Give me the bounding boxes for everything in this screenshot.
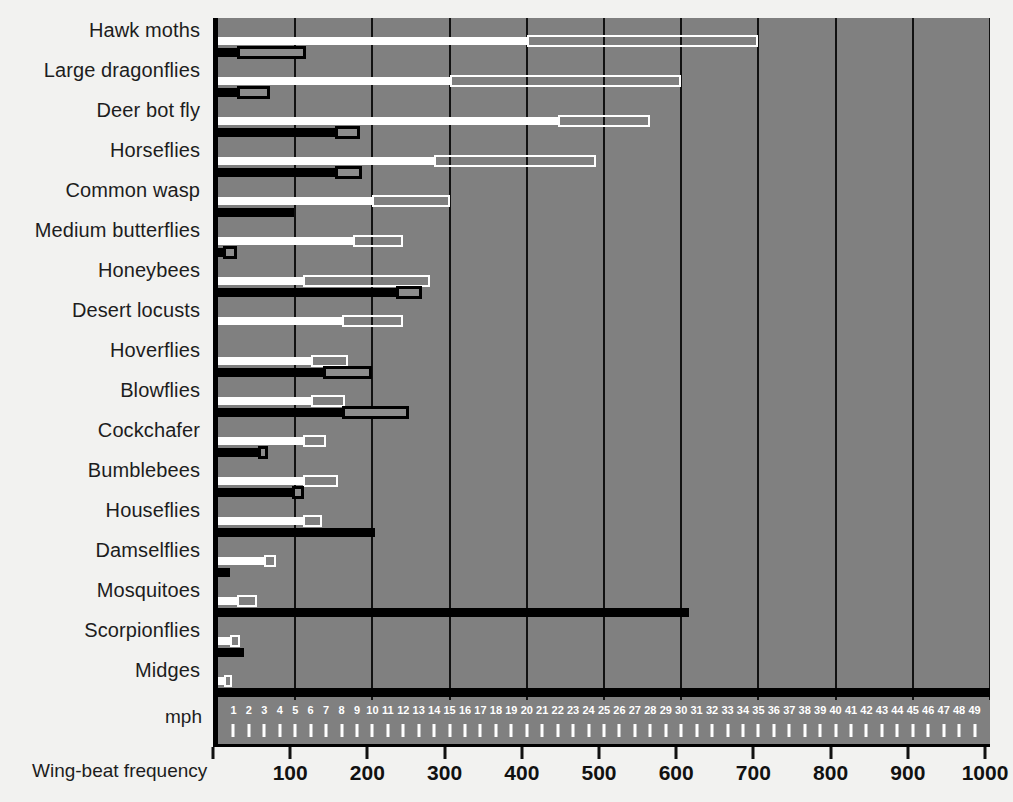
- chart-row: [218, 591, 990, 631]
- mph-tick-label: 31: [691, 704, 703, 716]
- wingbeat-bar-range: [342, 315, 404, 327]
- mph-tick-label: 32: [706, 704, 718, 716]
- wingbeat-bar-solid: [218, 317, 342, 325]
- speed-bar-range: [237, 46, 306, 59]
- mph-tick-mark: [788, 724, 791, 737]
- wingbeat-bar-range: [450, 75, 682, 87]
- hz-tick-label: 900: [890, 761, 925, 785]
- wingbeat-bar-solid: [218, 157, 434, 165]
- wingbeat-bar-solid: [218, 597, 237, 605]
- mph-tick-mark: [618, 724, 621, 737]
- wingbeat-bar-solid: [218, 397, 311, 405]
- mph-tick-label: 19: [505, 704, 517, 716]
- hz-tick-mark: [598, 747, 601, 759]
- mph-tick-label: 17: [474, 704, 486, 716]
- wingbeat-bar-solid: [218, 517, 303, 525]
- chart-row: [218, 391, 990, 431]
- speed-bar-range: [396, 286, 422, 299]
- plot-inner: [218, 18, 990, 700]
- chart-row: [218, 311, 990, 351]
- chart-row: [218, 471, 990, 511]
- plot-area: [213, 18, 990, 700]
- mph-tick-label: 14: [428, 704, 440, 716]
- mph-axis-title: mph: [124, 706, 202, 728]
- mph-tick-label: 33: [721, 704, 733, 716]
- mph-tick-mark: [587, 724, 590, 737]
- wingbeat-bar-range: [303, 515, 322, 527]
- mph-tick-mark: [556, 724, 559, 737]
- wingbeat-bar-solid: [218, 437, 303, 445]
- mph-tick-label: 27: [629, 704, 641, 716]
- hz-tick-label: 100: [273, 761, 308, 785]
- mph-tick-label: 48: [953, 704, 965, 716]
- mph-tick-label: 39: [814, 704, 826, 716]
- mph-tick-mark: [448, 724, 451, 737]
- mph-tick-label: 35: [752, 704, 764, 716]
- mph-tick-label: 3: [261, 704, 267, 716]
- hz-tick-label: 700: [736, 761, 771, 785]
- mph-tick-mark: [278, 724, 281, 737]
- chart-row: [218, 231, 990, 271]
- mph-tick-label: 47: [938, 704, 950, 716]
- category-label: Honeybees: [98, 259, 200, 282]
- speed-bar-solid: [218, 608, 689, 617]
- hz-tick-label: 1000: [962, 761, 1009, 785]
- mph-tick-label: 45: [907, 704, 919, 716]
- speed-bar-range: [335, 166, 361, 179]
- hz-tick-label: 300: [427, 761, 462, 785]
- mph-tick-mark: [695, 724, 698, 737]
- wingbeat-bar-solid: [218, 557, 264, 565]
- mph-tick-label: 23: [567, 704, 579, 716]
- chart-row: [218, 31, 990, 71]
- mph-tick-label: 43: [876, 704, 888, 716]
- mph-tick-mark: [355, 724, 358, 737]
- mph-tick-mark: [680, 724, 683, 737]
- speed-bar-range: [342, 406, 410, 419]
- speed-bar-solid: [218, 488, 292, 497]
- wingbeat-bar-range: [372, 195, 449, 207]
- category-label: Large dragonflies: [44, 59, 200, 82]
- mph-tick-mark: [927, 724, 930, 737]
- speed-bar-solid: [218, 168, 335, 177]
- category-label: Common wasp: [66, 179, 200, 202]
- mph-tick-label: 13: [413, 704, 425, 716]
- x-axis-caption: Wing-beat frequency: [32, 760, 207, 782]
- hz-tick-mark: [520, 747, 523, 759]
- wingbeat-bar-solid: [218, 477, 303, 485]
- mph-tick-label: 42: [860, 704, 872, 716]
- category-label: Damselflies: [96, 539, 200, 562]
- mph-tick-mark: [263, 724, 266, 737]
- mph-tick-mark: [819, 724, 822, 737]
- category-label: Scorpionflies: [84, 619, 200, 642]
- mph-tick-mark: [494, 724, 497, 737]
- mph-tick-label: 34: [737, 704, 749, 716]
- mph-tick-mark: [572, 724, 575, 737]
- mph-tick-mark: [371, 724, 374, 737]
- mph-tick-mark: [865, 724, 868, 737]
- speed-bar-solid: [218, 408, 342, 417]
- wingbeat-bar-range: [527, 35, 759, 47]
- hz-tick-label: 400: [504, 761, 539, 785]
- mph-tick-label: 12: [397, 704, 409, 716]
- wingbeat-bar-solid: [218, 37, 527, 45]
- mph-tick-label: 21: [536, 704, 548, 716]
- mph-tick-label: 22: [552, 704, 564, 716]
- hz-tick-label: 200: [350, 761, 385, 785]
- hz-tick-mark: [675, 747, 678, 759]
- category-label: Cockchafer: [98, 419, 200, 442]
- mph-tick-label: 38: [799, 704, 811, 716]
- mph-tick-label: 36: [768, 704, 780, 716]
- mph-tick-mark: [726, 724, 729, 737]
- speed-bar-solid: [218, 688, 990, 697]
- wingbeat-bar-range: [434, 155, 596, 167]
- hz-axis: 1002003004005006007008009001000: [213, 747, 990, 797]
- speed-bar-solid: [218, 648, 244, 657]
- category-label: Desert locusts: [72, 299, 200, 322]
- mph-tick-label: 44: [891, 704, 903, 716]
- hz-tick-label: 600: [659, 761, 694, 785]
- mph-tick-label: 46: [922, 704, 934, 716]
- wingbeat-bar-range: [353, 235, 403, 247]
- mph-tick-mark: [711, 724, 714, 737]
- mph-tick-mark: [973, 724, 976, 737]
- mph-tick-label: 25: [598, 704, 610, 716]
